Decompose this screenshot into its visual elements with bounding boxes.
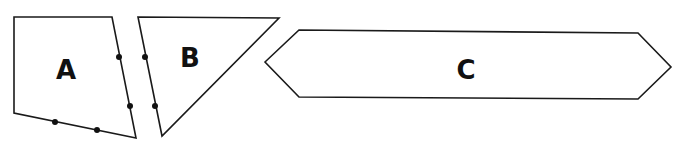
shape-a-label: A — [56, 55, 76, 85]
vertex-dot — [127, 103, 133, 109]
vertex-dot — [116, 54, 122, 60]
shape-a-group: A — [14, 17, 136, 138]
shape-c-label: C — [456, 55, 475, 85]
vertex-dot — [152, 103, 158, 109]
shapes-diagram: A B C — [0, 0, 683, 144]
shape-c-group: C — [265, 30, 671, 99]
vertex-dot — [94, 127, 100, 133]
vertex-dot — [142, 54, 148, 60]
shape-b-label: B — [180, 43, 200, 73]
shape-b-triangle — [138, 17, 279, 136]
shape-b-group: B — [138, 17, 279, 136]
vertex-dot — [52, 119, 58, 125]
